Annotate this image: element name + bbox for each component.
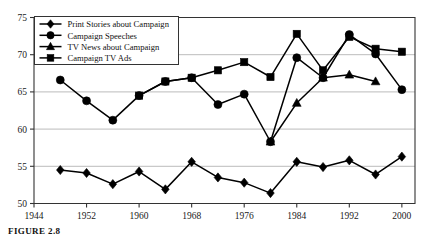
y-tick-label-65: 65 [18, 87, 28, 97]
legend-label: Campaign Speeches [68, 31, 138, 41]
marker-circle [56, 76, 64, 84]
marker-square [47, 55, 54, 62]
marker-diamond [57, 165, 65, 174]
y-tick-label-60: 60 [18, 125, 28, 135]
marker-circle [240, 90, 248, 98]
x-tick-label-1952: 1952 [77, 211, 96, 221]
marker-circle [83, 97, 91, 105]
x-tick-label-1992: 1992 [340, 211, 359, 221]
marker-circle [398, 86, 406, 94]
marker-square [267, 73, 274, 80]
x-tick-label-2000: 2000 [392, 211, 411, 221]
gridlines [34, 55, 415, 167]
y-tick-label-50: 50 [18, 199, 28, 209]
marker-square [293, 30, 300, 37]
x-tick-label-1944: 1944 [25, 211, 44, 221]
y-axis-tick-labels: 505560657075 [18, 13, 28, 209]
legend-label: Campaign TV Ads [68, 53, 133, 63]
marker-diamond [319, 162, 327, 171]
marker-diamond [240, 178, 248, 187]
marker-square [214, 67, 221, 74]
legend-label: TV News about Campaign [68, 42, 160, 52]
x-tick-label-1968: 1968 [182, 211, 201, 221]
figure-container: 505560657075 194419521960196819761984199… [0, 0, 421, 245]
marker-triangle [345, 70, 354, 78]
marker-diamond [346, 156, 354, 165]
series-diamond [57, 152, 406, 198]
x-tick-label-1984: 1984 [287, 211, 306, 221]
series-line [270, 75, 375, 142]
marker-diamond [214, 173, 222, 182]
marker-square [188, 74, 195, 81]
figure-caption: FIGURE 2.8 [8, 226, 61, 236]
marker-diamond [398, 152, 406, 161]
marker-square [319, 67, 326, 74]
y-tick-label-70: 70 [18, 50, 28, 60]
legend-label: Print Stories about Campaign [68, 19, 170, 29]
marker-circle [293, 54, 301, 62]
y-tick-label-55: 55 [18, 162, 28, 172]
marker-square [162, 78, 169, 85]
marker-diamond [109, 180, 117, 189]
marker-circle [109, 116, 117, 124]
line-chart: 505560657075 194419521960196819761984199… [0, 0, 421, 245]
chart-legend: Print Stories about CampaignCampaign Spe… [35, 17, 179, 65]
x-tick-label-1976: 1976 [235, 211, 254, 221]
marker-diamond [372, 170, 380, 179]
marker-circle [47, 32, 54, 39]
x-axis-tick-labels: 19441952196019681976198419922000 [25, 211, 412, 221]
y-tick-label-75: 75 [18, 13, 28, 23]
marker-square [241, 59, 248, 66]
marker-square [136, 92, 143, 99]
marker-diamond [83, 168, 91, 177]
x-tick-label-1960: 1960 [130, 211, 149, 221]
marker-square [372, 45, 379, 52]
marker-circle [214, 101, 222, 109]
marker-square [398, 48, 405, 55]
marker-square [346, 33, 353, 40]
marker-diamond [135, 167, 143, 176]
